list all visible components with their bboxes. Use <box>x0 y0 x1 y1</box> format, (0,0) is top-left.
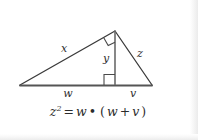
equation-equals-sign: = <box>62 104 76 119</box>
altitude-foot-right-angle-icon <box>104 75 115 86</box>
equation-plus-sign: + <box>118 104 132 119</box>
equation: z2=w•(w+v) <box>0 104 198 119</box>
triangle-diagram: x y z w v <box>0 0 198 100</box>
figure-root: x y z w v z2=w•(w+v) <box>0 0 198 140</box>
equation-multiplication-dot: • <box>87 104 98 119</box>
page-edge-bottom <box>0 134 198 140</box>
label-y: y <box>102 52 110 65</box>
side-x-line <box>20 31 115 85</box>
side-z-line <box>115 31 152 85</box>
label-v: v <box>130 87 137 100</box>
apex-right-angle-icon <box>104 38 115 46</box>
label-x: x <box>61 42 68 55</box>
equation-open-paren: ( <box>98 104 107 119</box>
label-z: z <box>136 47 143 60</box>
label-w: w <box>63 87 73 100</box>
equation-lhs-exponent: 2 <box>56 104 61 113</box>
equation-sum-left-w: w <box>107 104 118 119</box>
equation-close-paren: ) <box>139 104 148 119</box>
page-edge-right <box>190 0 198 140</box>
equation-factor-w: w <box>76 104 87 119</box>
